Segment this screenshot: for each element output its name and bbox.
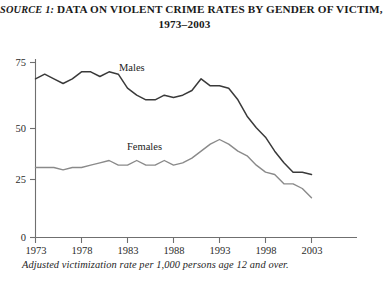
series-label-females: Females (127, 141, 162, 152)
series-label-males: Males (119, 62, 145, 73)
chart-canvas (0, 40, 369, 245)
title-subtitle: 1973–2003 (0, 17, 369, 32)
x-tick-label-1983: 1983 (108, 245, 148, 256)
page-title: SOURCE 1: DATA ON VIOLENT CRIME RATES BY… (0, 2, 369, 17)
series-line-females (36, 140, 312, 198)
y-tick-label-50: 50 (0, 123, 26, 134)
source-tag: SOURCE 1: (0, 4, 54, 15)
chart-title-block: SOURCE 1: DATA ON VIOLENT CRIME RATES BY… (0, 2, 369, 32)
y-tick-label-0: 0 (0, 232, 26, 243)
title-main-text: DATA ON VIOLENT CRIME RATES BY GENDER OF… (57, 3, 383, 15)
series-line-males (36, 72, 312, 175)
y-tick-label-75: 75 (0, 57, 26, 68)
chart-caption: Adjusted victimization rate per 1,000 pe… (22, 259, 289, 270)
x-tick-label-1988: 1988 (154, 245, 194, 256)
y-tick-label-25: 25 (0, 174, 26, 185)
x-tick-label-1993: 1993 (200, 245, 240, 256)
x-tick-marks (36, 238, 312, 244)
y-tick-marks (30, 63, 36, 238)
x-tick-label-2003: 2003 (292, 245, 332, 256)
x-tick-label-1978: 1978 (62, 245, 102, 256)
x-tick-label-1998: 1998 (246, 245, 286, 256)
x-tick-label-1973: 1973 (16, 245, 56, 256)
plot-area: 75 50 25 0 1973 1978 1983 1988 1993 1998… (0, 40, 369, 245)
